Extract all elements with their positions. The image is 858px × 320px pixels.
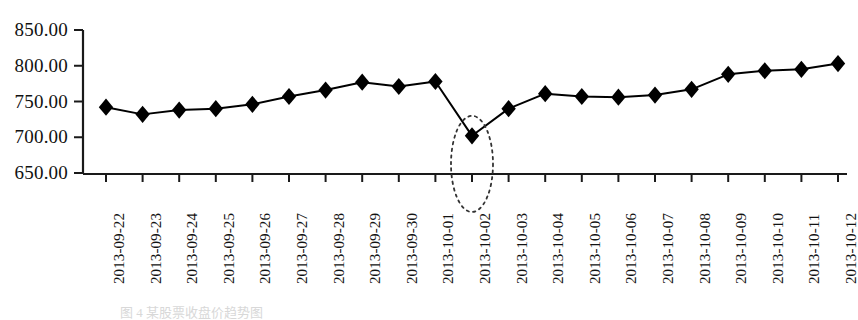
y-axis-tick-label: 650.00 — [0, 163, 68, 182]
data-point-marker — [538, 85, 552, 102]
y-axis-tick-label: 850.00 — [0, 20, 68, 39]
data-point-marker — [99, 99, 113, 116]
y-axis-tick-label: 800.00 — [0, 56, 68, 75]
x-axis-tick-label: 2013-10-03 — [515, 213, 530, 284]
x-axis-tick-label: 2013-10-09 — [734, 213, 749, 284]
data-point-marker — [611, 89, 625, 106]
data-point-marker — [831, 55, 845, 72]
data-point-marker — [318, 81, 332, 98]
data-point-marker — [684, 81, 698, 98]
x-axis-tick-label: 2013-10-05 — [588, 213, 603, 284]
data-point-marker — [355, 74, 369, 91]
data-point-markers — [99, 55, 845, 144]
y-axis-tick-label: 700.00 — [0, 127, 68, 146]
data-point-marker — [209, 100, 223, 117]
x-axis-tick-label: 2013-10-07 — [661, 213, 676, 284]
x-axis-tick-label: 2013-10-12 — [844, 213, 858, 284]
data-point-marker — [172, 101, 186, 118]
x-axis-tick-label: 2013-10-04 — [551, 213, 566, 284]
x-axis-tick-label: 2013-09-28 — [332, 213, 347, 284]
data-point-marker — [575, 88, 589, 105]
figure-caption: 图 4 某股票收盘价趋势图 — [120, 306, 520, 320]
y-axis-tick-label: 750.00 — [0, 92, 68, 111]
data-point-marker — [721, 66, 735, 83]
x-axis-tick-label: 2013-09-23 — [149, 213, 164, 284]
x-axis-tick-label: 2013-09-22 — [112, 213, 127, 284]
data-point-marker — [758, 62, 772, 79]
x-axis-tick-label: 2013-09-26 — [258, 213, 273, 284]
x-axis-tick-label: 2013-09-29 — [368, 213, 383, 284]
x-axis-tick-label: 2013-10-06 — [624, 213, 639, 284]
x-axis-tick-label: 2013-10-02 — [478, 213, 493, 284]
x-axis-tick-label: 2013-09-27 — [295, 213, 310, 284]
data-point-marker — [135, 106, 149, 123]
chart-axes — [83, 30, 847, 174]
data-point-marker — [648, 86, 662, 103]
x-axis-ticks — [106, 174, 838, 182]
x-axis-tick-label: 2013-10-10 — [771, 213, 786, 284]
x-axis-tick-label: 2013-10-08 — [698, 213, 713, 284]
x-axis-tick-label: 2013-10-11 — [807, 214, 822, 284]
data-point-marker — [794, 61, 808, 78]
data-point-marker — [501, 100, 515, 117]
y-axis-ticks — [74, 30, 83, 173]
x-axis-tick-label: 2013-10-01 — [441, 213, 456, 284]
x-axis-tick-label: 2013-09-25 — [222, 213, 237, 284]
data-point-marker — [282, 88, 296, 105]
x-axis-tick-label: 2013-09-30 — [405, 213, 420, 284]
data-point-marker — [392, 78, 406, 95]
data-point-marker — [245, 96, 259, 113]
x-axis-tick-label: 2013-09-24 — [185, 213, 200, 284]
